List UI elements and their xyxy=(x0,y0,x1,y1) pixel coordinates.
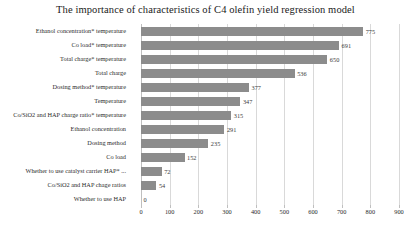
bar-rows: Ethanol concentration* temperature775Co … xyxy=(141,24,399,206)
bar xyxy=(141,27,363,36)
gridline-900 xyxy=(399,24,400,206)
bar-value-label: 347 xyxy=(243,97,252,106)
bar-value-label: 235 xyxy=(211,139,220,148)
bar-row: Dosing method* temperature377 xyxy=(141,80,399,94)
bar-value-label: 536 xyxy=(297,69,306,78)
bar-row: Ethanol concentration* temperature775 xyxy=(141,24,399,38)
bar-row: Whether to use catalyst carrier HAP* ...… xyxy=(141,164,399,178)
category-label: Total charge xyxy=(0,66,126,80)
category-label: Dosing method* temperature xyxy=(0,80,126,94)
bar xyxy=(141,125,224,134)
bar-value-label: 377 xyxy=(252,83,261,92)
category-label: Co/SiO2 and HAP chage ratios xyxy=(0,178,126,192)
bar-row: Dosing method235 xyxy=(141,136,399,150)
bar-row: Ethanol concentration291 xyxy=(141,122,399,136)
category-label: Ethanol concentration* temperature xyxy=(0,24,126,38)
category-label: Co load* temperature xyxy=(0,38,126,52)
bar xyxy=(141,69,295,78)
bar-value-label: 315 xyxy=(234,111,243,120)
bar-value-label: 291 xyxy=(227,125,236,134)
bar-row: Co load* temperature691 xyxy=(141,38,399,52)
x-tick-label-300: 300 xyxy=(222,208,231,215)
bar xyxy=(141,181,156,190)
bar-row: Temperature347 xyxy=(141,94,399,108)
x-tick-label-500: 500 xyxy=(280,208,289,215)
bar-row: Co/SiO2 and HAP charge ratio* temperatur… xyxy=(141,108,399,122)
bar-row: Total charge* temperature650 xyxy=(141,52,399,66)
bar xyxy=(141,153,185,162)
x-tick-label-100: 100 xyxy=(165,208,174,215)
bar-value-label: 691 xyxy=(342,41,351,50)
category-label: Total charge* temperature xyxy=(0,52,126,66)
plot-area: Ethanol concentration* temperature775Co … xyxy=(141,24,399,206)
category-label: Whether to use catalyst carrier HAP* ... xyxy=(0,164,126,178)
category-label: Dosing method xyxy=(0,136,126,150)
bar-row: Total charge536 xyxy=(141,66,399,80)
x-tick-label-200: 200 xyxy=(194,208,203,215)
x-tick-label-600: 600 xyxy=(308,208,317,215)
bar-row: Co load152 xyxy=(141,150,399,164)
x-tick-label-700: 700 xyxy=(337,208,346,215)
bar-value-label: 152 xyxy=(187,153,196,162)
bar-value-label: 72 xyxy=(164,167,170,176)
bar xyxy=(141,41,339,50)
category-label: Co load xyxy=(0,150,126,164)
x-tick-label-0: 0 xyxy=(139,208,142,215)
bar-value-label: 54 xyxy=(159,181,165,190)
x-axis: 0100200300400500600700800900 xyxy=(141,208,399,222)
plot-wrapper: Ethanol concentration* temperature775Co … xyxy=(0,24,411,236)
category-label: Whether to use HAP xyxy=(0,192,126,206)
bar xyxy=(141,167,162,176)
category-label: Temperature xyxy=(0,94,126,108)
bar-value-label: 650 xyxy=(330,55,339,64)
x-tick-label-900: 900 xyxy=(394,208,403,215)
bar xyxy=(141,97,240,106)
chart-container: The importance of characteristics of C4 … xyxy=(0,0,411,236)
category-label: Ethanol concentration xyxy=(0,122,126,136)
bar xyxy=(141,55,327,64)
chart-title: The importance of characteristics of C4 … xyxy=(0,4,411,15)
bar xyxy=(141,83,249,92)
bar-value-label: 0 xyxy=(144,195,147,204)
bar xyxy=(141,139,208,148)
bar-row: Co/SiO2 and HAP chage ratios54 xyxy=(141,178,399,192)
bar-value-label: 775 xyxy=(366,27,375,36)
bar xyxy=(141,111,231,120)
bar-row: Whether to use HAP0 xyxy=(141,192,399,206)
category-label: Co/SiO2 and HAP charge ratio* temperatur… xyxy=(0,108,126,122)
x-tick-label-800: 800 xyxy=(366,208,375,215)
x-tick-label-400: 400 xyxy=(251,208,260,215)
